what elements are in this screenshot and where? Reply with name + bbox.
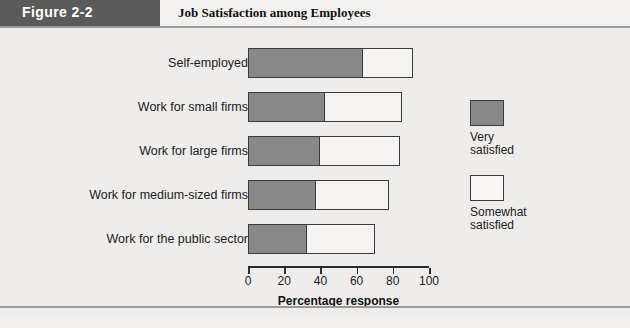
x-axis-line — [248, 266, 429, 268]
bar-segment-somewhat-satisfied — [324, 92, 402, 122]
chart-body: Percentage response Self-employedWork fo… — [0, 28, 630, 316]
bar-row — [248, 224, 375, 254]
bar-segment-somewhat-satisfied — [315, 180, 389, 210]
x-axis-tick-label-3: 60 — [350, 274, 363, 288]
bar-segment-very-satisfied — [248, 92, 326, 122]
category-label-2: Work for large firms — [139, 144, 248, 158]
x-axis-tick-label-4: 80 — [386, 274, 399, 288]
legend-swatch-very-satisfied — [470, 100, 504, 126]
bar-segment-very-satisfied — [248, 180, 317, 210]
legend-item-0: Verysatisfied — [470, 100, 590, 157]
x-axis-tick-label-5: 100 — [419, 274, 439, 288]
bar-segment-somewhat-satisfied — [306, 224, 374, 254]
x-axis-tick-label-0: 0 — [245, 274, 252, 288]
bar-segment-somewhat-satisfied — [319, 136, 400, 166]
footer-divider — [0, 306, 630, 308]
category-label-0: Self-employed — [168, 56, 248, 70]
legend-label-0: Verysatisfied — [470, 131, 590, 157]
category-label-1: Work for small firms — [138, 100, 248, 114]
category-label-4: Work for the public sector — [107, 232, 249, 246]
chart-legend: VerysatisfiedSomewhatsatisfied — [470, 100, 590, 250]
bar-row — [248, 136, 400, 166]
legend-label-line2-1: satisfied — [470, 219, 590, 232]
bar-segment-very-satisfied — [248, 224, 308, 254]
bar-row — [248, 180, 389, 210]
x-axis-tick-label-1: 20 — [278, 274, 291, 288]
bar-row — [248, 48, 413, 78]
figure-number-label: Figure 2-2 — [22, 4, 93, 20]
x-axis-tick-label-2: 40 — [314, 274, 327, 288]
legend-item-1: Somewhatsatisfied — [470, 175, 590, 232]
legend-label-line2-0: satisfied — [470, 144, 590, 157]
legend-label-1: Somewhatsatisfied — [470, 206, 590, 232]
legend-swatch-somewhat-satisfied — [470, 175, 504, 201]
category-label-3: Work for medium-sized firms — [89, 188, 248, 202]
figure-container: Figure 2-2 Job Satisfaction among Employ… — [0, 0, 630, 328]
bar-segment-very-satisfied — [248, 136, 320, 166]
figure-header: Figure 2-2 Job Satisfaction among Employ… — [0, 0, 630, 26]
bar-segment-very-satisfied — [248, 48, 364, 78]
bar-segment-somewhat-satisfied — [362, 48, 412, 78]
figure-title: Job Satisfaction among Employees — [178, 5, 370, 21]
bar-row — [248, 92, 402, 122]
